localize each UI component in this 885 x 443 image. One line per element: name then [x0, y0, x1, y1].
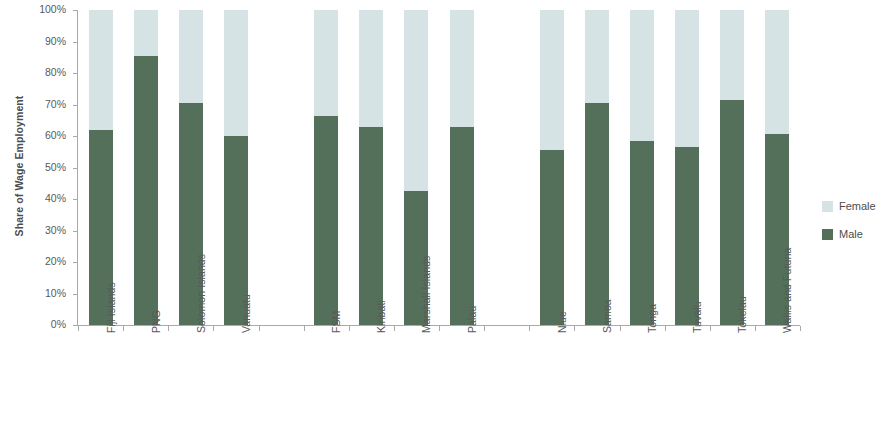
y-axis-tick-label: 40% [45, 192, 66, 204]
bar-segment-female[interactable] [179, 10, 203, 103]
y-axis-tick-label: 20% [45, 255, 66, 267]
x-axis-tick-mark [710, 326, 711, 331]
x-axis-label: Samoa [601, 299, 613, 333]
legend-label: Male [839, 228, 863, 240]
bar-segment-male[interactable] [450, 127, 474, 325]
x-axis-tick-mark [304, 326, 305, 331]
y-axis-tick: 50% [0, 168, 78, 169]
y-axis-tick: 40% [0, 199, 78, 200]
y-axis-tick-label: 60% [45, 129, 66, 141]
x-axis-tick-mark [755, 326, 756, 331]
bar-segment-female[interactable] [89, 10, 113, 130]
bar-segment-female[interactable] [630, 10, 654, 141]
bar-column[interactable] [89, 10, 113, 325]
y-axis-tick-label: 100% [39, 3, 66, 15]
x-axis-label: Tuvalu [691, 301, 703, 333]
y-axis-tick-mark [73, 105, 78, 106]
x-axis-label: Palau [466, 306, 478, 333]
y-axis-tick: 30% [0, 231, 78, 232]
bar-segment-male[interactable] [540, 150, 564, 325]
bar-segment-female[interactable] [675, 10, 699, 147]
bar-column[interactable] [720, 10, 744, 325]
y-axis-tick: 20% [0, 262, 78, 263]
bar-segment-female[interactable] [314, 10, 338, 116]
x-axis-tick-mark [123, 326, 124, 331]
bar-column[interactable] [540, 10, 564, 325]
bar-segment-female[interactable] [585, 10, 609, 103]
bar-segment-female[interactable] [765, 10, 789, 134]
y-axis-tick: 10% [0, 294, 78, 295]
y-axis-tick: 100% [0, 10, 78, 11]
x-axis-tick-mark [665, 326, 666, 331]
y-axis-tick: 60% [0, 136, 78, 137]
y-axis-tick-mark [73, 199, 78, 200]
y-axis-tick-label: 10% [45, 287, 66, 299]
x-axis-label: Solomon Islands [195, 254, 207, 333]
bar-segment-male[interactable] [359, 127, 383, 325]
bar-column[interactable] [585, 10, 609, 325]
bar-column[interactable] [314, 10, 338, 325]
y-axis-tick-mark [73, 136, 78, 137]
bar-column[interactable] [630, 10, 654, 325]
bar-segment-female[interactable] [540, 10, 564, 150]
bar-segment-female[interactable] [450, 10, 474, 127]
bar-segment-female[interactable] [404, 10, 428, 191]
bar-segment-female[interactable] [134, 10, 158, 56]
bar-segment-male[interactable] [720, 100, 744, 325]
y-axis-tick-mark [73, 294, 78, 295]
legend-swatch-female [822, 201, 833, 212]
y-axis-tick: 90% [0, 42, 78, 43]
bar-segment-male[interactable] [630, 141, 654, 325]
y-axis-tick-mark [73, 168, 78, 169]
bar-segment-male[interactable] [314, 116, 338, 325]
y-axis-tick-mark [73, 73, 78, 74]
y-axis-tick: 70% [0, 105, 78, 106]
y-axis-tick-label: 80% [45, 66, 66, 78]
bar-segment-male[interactable] [675, 147, 699, 325]
y-axis-tick-label: 30% [45, 224, 66, 236]
bar-column[interactable] [224, 10, 248, 325]
legend-swatch-male [822, 229, 833, 240]
y-axis-tick-label: 90% [45, 35, 66, 47]
x-axis-label: Wallis and Futuna [781, 248, 793, 333]
x-axis-label: Marshall Islands [420, 256, 432, 333]
x-axis-tick-mark [259, 326, 260, 331]
x-axis-label: PNG [150, 310, 162, 333]
x-axis-tick-mark [439, 326, 440, 331]
x-axis-label: Vanuatu [240, 294, 252, 333]
y-axis-tick-mark [73, 10, 78, 11]
y-axis-tick: 0% [0, 325, 78, 326]
bar-column[interactable] [359, 10, 383, 325]
legend-item[interactable]: Male [822, 228, 882, 240]
x-axis-label: Fiji Islands [105, 282, 117, 333]
bar-segment-female[interactable] [720, 10, 744, 100]
x-axis-label: Niue [556, 311, 568, 333]
bar-column[interactable] [450, 10, 474, 325]
x-axis-label: Tokelau [736, 296, 748, 333]
bar-segment-male[interactable] [585, 103, 609, 325]
bar-segment-female[interactable] [224, 10, 248, 136]
bar-column[interactable] [134, 10, 158, 325]
bar-segment-female[interactable] [359, 10, 383, 127]
legend-item[interactable]: Female [822, 200, 882, 212]
x-axis-tick-mark [213, 326, 214, 331]
bar-column[interactable] [675, 10, 699, 325]
x-axis-label: Kiribati [375, 300, 387, 333]
x-axis-tick-mark [484, 326, 485, 331]
x-axis-tick-mark [394, 326, 395, 331]
x-axis-tick-mark [349, 326, 350, 331]
x-axis-tick-mark [168, 326, 169, 331]
bar-segment-male[interactable] [134, 56, 158, 325]
plot-area: 100%90%80%70%60%50%40%30%20%10%0% [78, 10, 800, 325]
x-axis-tick-mark [529, 326, 530, 331]
y-axis-tick-mark [73, 262, 78, 263]
x-axis-label: Tonga [646, 304, 658, 333]
y-axis-title: Share of Wage Employment [13, 51, 25, 281]
x-axis-label: FSM [330, 311, 342, 333]
x-axis-tick-mark [78, 326, 79, 331]
x-axis-tick-mark [620, 326, 621, 331]
y-axis-tick-label: 0% [51, 318, 66, 330]
chart-legend: FemaleMale [822, 200, 882, 256]
y-axis-tick-mark [73, 231, 78, 232]
x-axis-tick-mark [574, 326, 575, 331]
